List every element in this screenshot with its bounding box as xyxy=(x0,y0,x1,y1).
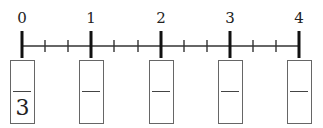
denominator-input-4[interactable] xyxy=(288,95,311,121)
numerator-input-4[interactable] xyxy=(288,63,311,89)
numerator-input-3[interactable] xyxy=(219,63,242,89)
fraction-box-1[interactable] xyxy=(79,60,104,124)
denominator-input-3[interactable] xyxy=(219,95,242,121)
major-ticks xyxy=(22,31,299,58)
tick-label-2: 2 xyxy=(156,9,166,27)
fraction-bar xyxy=(13,91,31,92)
fraction-bar xyxy=(82,91,100,92)
tick-label-4: 4 xyxy=(294,9,304,27)
tick-label-0: 0 xyxy=(17,9,27,27)
fraction-bar xyxy=(152,91,170,92)
fraction-box-0[interactable]: 3 xyxy=(10,60,35,124)
denominator-input-1[interactable] xyxy=(80,95,103,121)
denominator-0: 3 xyxy=(11,95,34,121)
fraction-bar xyxy=(290,91,308,92)
fraction-bar xyxy=(221,91,239,92)
tick-label-3: 3 xyxy=(225,9,235,27)
fraction-box-2[interactable] xyxy=(149,60,174,124)
numerator-input-0[interactable] xyxy=(11,63,34,89)
denominator-input-2[interactable] xyxy=(150,95,173,121)
fraction-box-3[interactable] xyxy=(218,60,243,124)
tick-label-1: 1 xyxy=(86,9,96,27)
numerator-input-2[interactable] xyxy=(150,63,173,89)
fraction-box-4[interactable] xyxy=(287,60,312,124)
numerator-input-1[interactable] xyxy=(80,63,103,89)
